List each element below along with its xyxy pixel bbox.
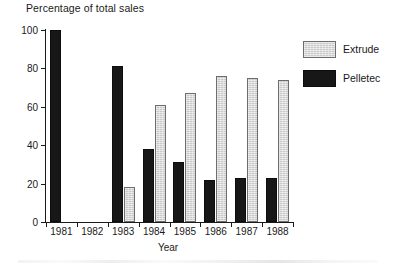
- chart-title: Percentage of total sales: [26, 2, 144, 14]
- x-axis-title: Year: [158, 242, 178, 253]
- x-axis-tick: [108, 223, 109, 227]
- legend-item-pelletec: Pelletec: [303, 69, 380, 87]
- x-axis-tick: [200, 223, 201, 227]
- legend-label-pelletec: Pelletec: [343, 72, 380, 84]
- bar-extrude: [216, 76, 227, 222]
- bar-extrude: [155, 105, 166, 222]
- y-axis-tick-label: 80: [6, 63, 38, 74]
- y-axis-tick: [41, 68, 45, 69]
- x-axis-tick-label: 1986: [205, 226, 227, 237]
- y-axis-tick: [41, 222, 45, 223]
- bar-extrude: [185, 93, 196, 222]
- bar-pelletec: [50, 30, 61, 222]
- x-axis-tick-label: 1984: [143, 226, 165, 237]
- x-axis-tick-label: 1987: [236, 226, 258, 237]
- scan-artifact: [18, 260, 378, 263]
- bar-chart: Percentage of total sales 020406080100 1…: [0, 0, 393, 264]
- bar-extrude: [124, 187, 135, 222]
- x-axis-tick: [262, 223, 263, 227]
- bar-pelletec: [266, 178, 277, 222]
- y-axis-tick: [41, 30, 45, 31]
- bar-pelletec: [112, 66, 123, 222]
- bar-pelletec: [235, 178, 246, 222]
- plot-area: [46, 30, 293, 222]
- x-axis-tick: [170, 223, 171, 227]
- x-axis-tick-label: 1988: [266, 226, 288, 237]
- x-axis-tick-label: 1983: [112, 226, 134, 237]
- y-axis-tick-label: 60: [6, 101, 38, 112]
- y-axis-tick: [41, 107, 45, 108]
- x-axis-tick: [231, 223, 232, 227]
- x-axis-tick-label: 1981: [50, 226, 72, 237]
- y-axis-tick-label: 100: [6, 25, 38, 36]
- y-axis-tick-label: 40: [6, 140, 38, 151]
- bar-extrude: [247, 78, 258, 222]
- x-axis-tick: [139, 223, 140, 227]
- legend-item-extrude: Extrude: [303, 40, 380, 58]
- x-axis-tick: [77, 223, 78, 227]
- y-axis-tick: [41, 184, 45, 185]
- y-axis-tick-label: 20: [6, 178, 38, 189]
- y-axis-tick: [41, 145, 45, 146]
- legend-swatch-extrude: [303, 41, 336, 58]
- chart-legend: Extrude Pelletec: [303, 40, 380, 98]
- bar-pelletec: [204, 180, 215, 222]
- bar-extrude: [278, 80, 289, 222]
- bar-pelletec: [143, 149, 154, 222]
- x-axis-tick: [293, 223, 294, 227]
- x-axis-tick-label: 1982: [81, 226, 103, 237]
- y-axis-tick-label: 0: [6, 217, 38, 228]
- bar-pelletec: [173, 162, 184, 222]
- legend-swatch-pelletec: [303, 70, 336, 87]
- x-axis-tick-label: 1985: [174, 226, 196, 237]
- x-axis-tick: [46, 223, 47, 227]
- legend-label-extrude: Extrude: [343, 43, 379, 55]
